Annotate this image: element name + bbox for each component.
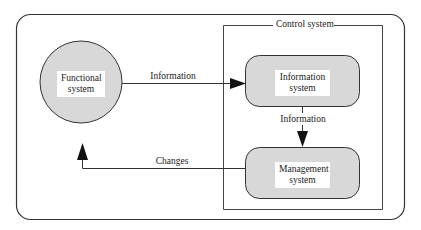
management-line1: Management <box>279 164 326 175</box>
functional-line2: system <box>61 84 101 95</box>
edge-label-functional-to-information: Information <box>143 71 203 82</box>
arrowhead-icon <box>230 78 246 89</box>
control-system-title: Control system <box>276 19 332 30</box>
functional-line1: Functional <box>61 73 101 84</box>
diagram-canvas <box>0 0 421 230</box>
functional-system-label: Functional system <box>57 71 105 97</box>
management-line2: system <box>279 175 326 186</box>
information-line2: system <box>279 83 326 94</box>
edge-label-management-to-functional: Changes <box>150 156 194 167</box>
management-system-label: Management system <box>275 162 330 188</box>
information-system-label: Information system <box>275 70 330 96</box>
edge-label-information-to-management: Information <box>273 114 333 125</box>
arrowhead-icon <box>297 131 308 147</box>
arrowhead-icon <box>77 143 88 160</box>
arrow-information-to-management <box>297 107 308 147</box>
information-line1: Information <box>279 72 326 83</box>
